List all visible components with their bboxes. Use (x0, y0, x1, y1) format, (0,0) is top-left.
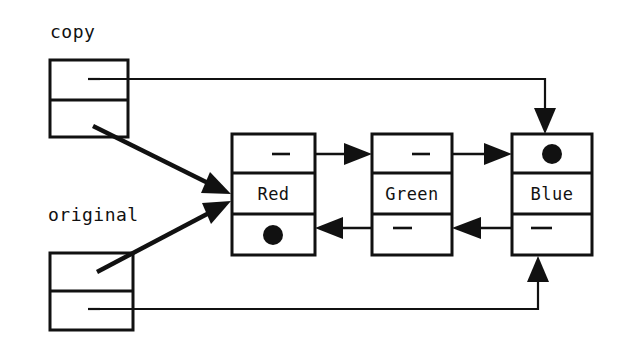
edge-copy-to-blue-arrowhead (534, 108, 556, 134)
linked-list-diagram: copy original (0, 0, 624, 356)
handle-copy-label: copy (50, 21, 95, 42)
edge-blue-prev-green-arrowhead (452, 217, 481, 239)
node-green: Green (372, 134, 452, 255)
edge-original-to-blue (88, 256, 549, 309)
edge-copy-to-red-arrowhead (201, 172, 231, 194)
handle-original-label: original (48, 204, 139, 225)
node-blue: Blue (512, 134, 592, 255)
edge-copy-to-red-path (93, 126, 208, 183)
node-blue-label: Blue (531, 184, 574, 204)
node-green-label: Green (385, 184, 439, 204)
node-blue-next-null-dot (542, 144, 562, 164)
edge-copy-to-blue (88, 79, 556, 134)
node-red-label: Red (257, 184, 289, 204)
handle-original: original (48, 204, 139, 330)
edge-green-next-blue-arrowhead (484, 143, 512, 165)
edge-original-to-blue-path (88, 278, 538, 309)
edge-original-to-blue-arrowhead (527, 256, 549, 282)
edge-copy-to-blue-path (88, 79, 545, 113)
edge-green-prev-red-arrowhead (315, 217, 343, 239)
diagram-canvas: copy original (0, 0, 624, 356)
edge-red-next-green-arrowhead (344, 143, 372, 165)
edge-copy-to-red (93, 126, 231, 194)
node-red: Red (232, 134, 315, 255)
edge-original-to-red-arrowhead (202, 201, 231, 224)
node-red-prev-null-dot (263, 225, 283, 245)
